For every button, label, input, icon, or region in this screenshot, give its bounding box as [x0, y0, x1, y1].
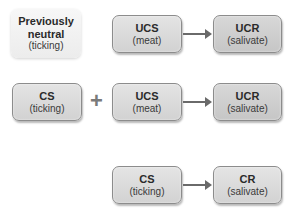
previously-neutral-stimulus-box: Previously neutral (ticking) [11, 9, 81, 58]
node-subtitle: (meat) [133, 103, 162, 115]
node-subtitle: (salivate) [227, 186, 268, 198]
arrow-icon [183, 101, 210, 103]
cr-box-row3: CR (salivate) [213, 166, 282, 204]
ucr-box-row1: UCR (salivate) [213, 15, 282, 53]
cs-box-row3: CS (ticking) [112, 166, 182, 204]
ucs-box-row1: UCS (meat) [112, 15, 182, 53]
arrow-icon [183, 184, 210, 186]
node-title: CS [139, 173, 154, 186]
arrow-icon [183, 33, 210, 35]
node-title: UCR [236, 22, 260, 35]
cs-box-row2: CS (ticking) [12, 83, 82, 121]
node-subtitle: (salivate) [227, 35, 268, 47]
plus-icon: + [90, 90, 103, 112]
node-title: UCS [135, 90, 158, 103]
node-title: UCS [135, 22, 158, 35]
node-subtitle: (meat) [133, 35, 162, 47]
ucr-box-row2: UCR (salivate) [213, 83, 282, 121]
node-title: neutral [28, 28, 65, 41]
node-subtitle: (ticking) [28, 40, 63, 52]
node-subtitle: (salivate) [227, 103, 268, 115]
ucs-box-row2: UCS (meat) [112, 83, 182, 121]
node-subtitle: (ticking) [129, 186, 164, 198]
node-title: CS [39, 90, 54, 103]
node-subtitle: (ticking) [29, 103, 64, 115]
node-title: CR [240, 173, 256, 186]
node-title: Previously [18, 15, 74, 28]
node-title: UCR [236, 90, 260, 103]
